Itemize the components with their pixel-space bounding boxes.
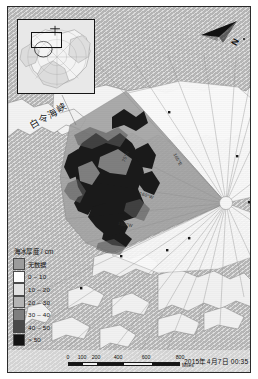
legend-item-label: 10 – 20 [28, 286, 50, 293]
legend: 海冰厚度 / cm 无数据0 – 1010 – 2020 – 3030 – 40… [13, 247, 75, 346]
legend-item: 10 – 20 [13, 283, 75, 296]
map-frame: N 白令海峡 165°E 160°W 155°W 75°N 海冰厚度 / cm … [7, 6, 251, 373]
north-arrow [193, 19, 241, 53]
legend-swatch [13, 271, 25, 283]
north-arrow-dot [243, 38, 245, 40]
legend-item: 30 – 40 [13, 308, 75, 321]
scale-bar-tick: 0 [67, 354, 70, 360]
legend-item: > 50 [13, 334, 75, 347]
legend-swatch [13, 283, 25, 295]
legend-swatch [13, 334, 25, 346]
legend-item: 0 – 10 [13, 271, 75, 284]
scale-bar: 0100200400600800 Miles [68, 354, 188, 370]
legend-item: 无数据 [13, 258, 75, 271]
scale-bar-track [68, 362, 180, 366]
legend-swatch [13, 296, 25, 308]
legend-title: 海冰厚度 / cm [14, 247, 75, 256]
inset-extent-box [31, 32, 62, 48]
scale-bar-ticks: 0100200400600800 [68, 354, 188, 361]
legend-rows: 无数据0 – 1010 – 2020 – 3030 – 4040 – 50> 5… [13, 258, 75, 346]
legend-swatch [13, 258, 25, 270]
legend-item-label: 30 – 40 [28, 311, 50, 318]
legend-item: 20 – 30 [13, 296, 75, 309]
legend-item-label: 无数据 [28, 260, 47, 269]
map-figure: N 白令海峡 165°E 160°W 155°W 75°N 海冰厚度 / cm … [0, 0, 258, 379]
legend-swatch [13, 321, 25, 333]
scale-bar-tick: 100 [78, 354, 87, 360]
inset-geometry [18, 20, 94, 93]
north-arrow-icon [193, 19, 241, 53]
legend-item-label: > 50 [28, 336, 41, 343]
timestamp-label: 2015年4月7日 00:35 [184, 356, 248, 366]
legend-swatch [13, 309, 25, 321]
locator-inset-map [17, 19, 95, 94]
legend-item: 40 – 50 [13, 321, 75, 334]
scale-bar-tick: 200 [92, 354, 101, 360]
legend-item-label: 0 – 10 [28, 273, 46, 280]
legend-item-label: 20 – 30 [28, 299, 50, 306]
legend-item-label: 40 – 50 [28, 324, 50, 331]
scale-bar-tick: 400 [114, 354, 123, 360]
scale-bar-tick: 600 [142, 354, 151, 360]
